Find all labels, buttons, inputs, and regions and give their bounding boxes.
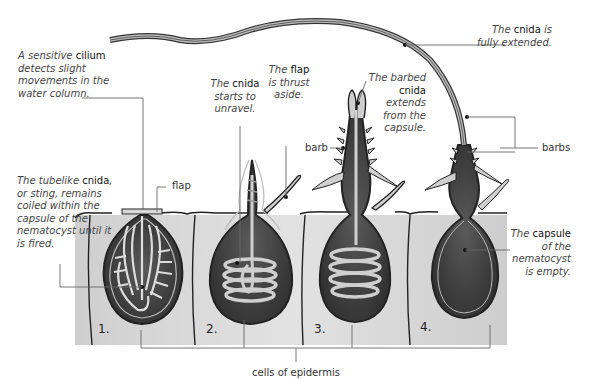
label-tubelike-post: , or sting, remains coiled within the ca…: [17, 175, 113, 249]
label-unravel-post: starts to unravel.: [214, 91, 256, 115]
label-unravel: The cnida starts to unravel.: [205, 78, 265, 116]
label-unravel-pre: The: [211, 78, 233, 89]
label-thrust-post: is thrust aside.: [268, 77, 309, 101]
label-cilium: A sensitive cilium detects slight moveme…: [18, 50, 118, 100]
label-barbed-term: cnida: [399, 85, 426, 96]
stage-number-3: 3.: [314, 322, 325, 336]
label-capsule-pre: The: [511, 228, 533, 239]
label-tubelike-term: cnida: [82, 175, 109, 186]
label-barbed-pre: The barbed: [369, 72, 426, 83]
label-cilium-pre: A sensitive: [18, 50, 76, 61]
label-tubelike-pre: The tubelike: [17, 175, 82, 186]
label-cilium-term: cilium: [76, 50, 106, 61]
label-thrust-term: flap: [291, 64, 310, 75]
stage-number-1: 1.: [98, 322, 109, 336]
stage-number-2: 2.: [206, 322, 217, 336]
label-extended-pre: The: [492, 24, 514, 35]
label-capsule-term: capsule: [533, 228, 571, 239]
label-barbed-cnida: The barbed cnida extends from the capsul…: [362, 72, 426, 135]
label-barbs: barbs: [542, 142, 570, 155]
label-tubelike-cnida: The tubelike cnida, or sting, remains co…: [17, 175, 117, 250]
label-epidermis: cells of epidermis: [236, 367, 356, 379]
label-unravel-term: cnida: [232, 78, 259, 89]
label-barb-text: barb: [305, 142, 328, 153]
label-capsule-empty: The capsule of the nematocyst is empty.: [505, 228, 571, 278]
label-fully-extended: The cnida is fully extended.: [470, 24, 552, 49]
label-extended-term: cnida: [514, 24, 541, 35]
label-capsule-post: of the nematocyst is empty.: [512, 241, 571, 277]
label-flap: flap: [172, 180, 191, 193]
label-epidermis-text: cells of epidermis: [252, 367, 340, 378]
label-flap-text: flap: [172, 180, 191, 191]
label-barbed-post: extends from the capsule.: [383, 97, 426, 133]
label-barbs-text: barbs: [542, 142, 570, 153]
label-flap-thrust: The flap is thrust aside.: [265, 64, 313, 102]
label-barb: barb: [305, 142, 328, 155]
label-cilium-post: detects slight movements in the water co…: [18, 63, 109, 99]
stage-number-4: 4.: [420, 320, 431, 334]
label-thrust-pre: The: [269, 64, 291, 75]
